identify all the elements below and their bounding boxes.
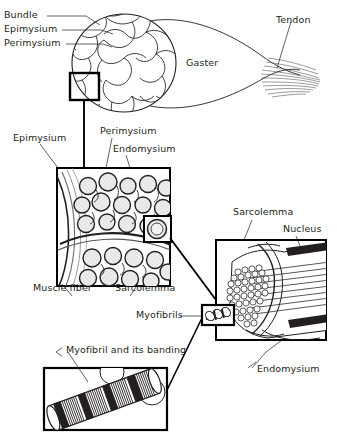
label-sarcolemma-mid: Sarcolemma [115, 283, 175, 293]
inset-fiber-detail [148, 220, 167, 239]
muscle-fiber-panel-content [227, 242, 330, 340]
label-endomysium-mid: Endomysium [113, 144, 176, 154]
label-sarcolemma-right: Sarcolemma [233, 207, 293, 217]
label-perimysium-mid: Perimysium [100, 126, 157, 136]
label-bundle: Bundle [4, 10, 38, 20]
label-myofibrils: Myofibrils [136, 310, 183, 320]
label-myofibril-banding: Myofibril and its banding [66, 345, 186, 355]
tendon-fibers [261, 58, 320, 97]
label-tendon: Tendon [276, 15, 311, 25]
label-muscle-fiber: Muscle fiber [33, 283, 92, 293]
muscle-structure-diagram: Bundle Epimysium Perimysium Gaster Tendo… [0, 0, 337, 436]
fascicle-cross-section [65, 6, 178, 122]
label-nucleus: Nucleus [283, 224, 322, 234]
label-epimysium-mid: Epimysium [13, 133, 66, 143]
label-perimysium-top: Perimysium [4, 38, 61, 48]
label-endomysium-right: Endomysium [257, 364, 320, 374]
connector-fiber-to-fiberpanel [170, 238, 216, 300]
label-epimysium-top: Epimysium [4, 24, 57, 34]
label-gaster: Gaster [186, 58, 218, 68]
